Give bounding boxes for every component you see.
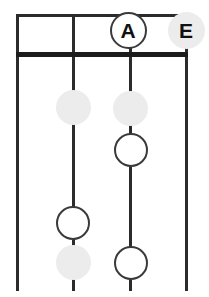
marker-e[interactable]: E bbox=[168, 12, 205, 49]
marker-s2-f4[interactable] bbox=[56, 245, 91, 280]
fretboard-diagram: AE bbox=[0, 0, 209, 297]
marker-s3-f2[interactable] bbox=[114, 133, 148, 167]
marker-a-label: A bbox=[120, 20, 135, 41]
marker-a[interactable]: A bbox=[110, 12, 147, 49]
marker-e-label: E bbox=[179, 20, 193, 41]
marker-s3-f1[interactable] bbox=[113, 91, 148, 126]
marker-s2-f1[interactable] bbox=[56, 90, 91, 125]
marker-s2-f3[interactable] bbox=[56, 206, 90, 240]
fret-line-top bbox=[16, 14, 188, 17]
marker-s3-f4[interactable] bbox=[114, 246, 148, 280]
nut-line bbox=[16, 52, 188, 57]
